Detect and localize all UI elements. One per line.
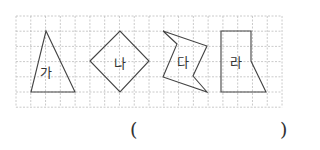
answer-blank[interactable] bbox=[150, 118, 270, 140]
shape-label: 가 bbox=[40, 65, 52, 80]
shape-label: 다 bbox=[177, 55, 189, 70]
shape-label: 나 bbox=[114, 56, 126, 71]
answer-close-paren: ) bbox=[280, 118, 287, 140]
shape-label: 라 bbox=[230, 55, 242, 70]
shape-zigzag: 다 bbox=[163, 31, 207, 92]
answer-open-paren: ( bbox=[130, 118, 137, 140]
